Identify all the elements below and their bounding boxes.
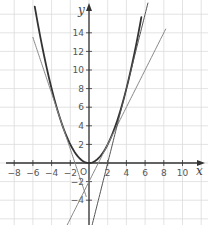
- y-axis-label: y: [77, 3, 85, 17]
- grid-lines: [0, 0, 208, 225]
- curve-tangent-at-x-3: [33, 37, 86, 196]
- x-axis-label: x: [196, 164, 203, 178]
- x-tick-label: 10: [177, 168, 189, 178]
- x-tick-label: 4: [124, 168, 130, 178]
- y-tick-label: 10: [73, 65, 85, 75]
- y-tick-label: 8: [78, 84, 84, 94]
- x-tick-label: −6: [26, 168, 40, 178]
- graph-plot: −8−6−4−22468101412108642−2−4 x y O: [0, 0, 208, 225]
- y-tick-label: 4: [78, 121, 84, 131]
- y-axis-arrow-icon: [86, 3, 92, 11]
- x-tick-label: 6: [142, 168, 148, 178]
- y-tick-label: 14: [73, 28, 85, 38]
- axes: [6, 3, 205, 225]
- origin-label: O: [80, 167, 87, 177]
- curves: [33, 3, 166, 225]
- y-tick-label: 12: [73, 47, 84, 57]
- y-tick-label: 6: [78, 102, 84, 112]
- x-tick-label: 8: [161, 168, 167, 178]
- x-tick-label: −4: [45, 168, 59, 178]
- curve-parabola: [35, 7, 142, 163]
- x-tick-label: −8: [8, 168, 22, 178]
- y-tick-label: 2: [78, 140, 84, 150]
- tick-labels: −8−6−4−22468101412108642−2−4: [8, 28, 189, 205]
